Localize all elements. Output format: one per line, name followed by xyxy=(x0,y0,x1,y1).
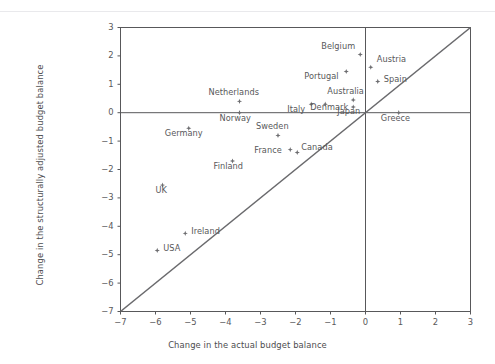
reference-lines xyxy=(121,28,471,312)
point-label-norway: Norway xyxy=(220,113,251,123)
x-tick-label: 0 xyxy=(354,317,378,327)
x-axis-title: Change in the actual budget balance xyxy=(0,340,495,350)
point-label-uk: UK xyxy=(156,185,167,195)
point-label-germany: Germany xyxy=(165,128,203,138)
y-tick-label: −6 xyxy=(92,278,114,288)
x-tick-label: 2 xyxy=(424,317,448,327)
y-tick-label: −4 xyxy=(92,221,114,231)
x-tick-label: −2 xyxy=(284,317,308,327)
y-tick-label: 1 xyxy=(92,79,114,89)
y-tick-label: −5 xyxy=(92,249,114,259)
y-axis-title: Change in the structurally adjusted budg… xyxy=(35,30,45,320)
point-label-france: France xyxy=(254,145,282,155)
y-tick-label: −1 xyxy=(92,136,114,146)
data-point-marker xyxy=(344,69,349,74)
data-point-marker xyxy=(295,150,300,155)
x-tick-label: 3 xyxy=(459,317,483,327)
y-tick-label: −3 xyxy=(92,192,114,202)
scatter-plot-canvas xyxy=(0,0,495,364)
x-tick-label: −6 xyxy=(144,317,168,327)
data-point-marker xyxy=(183,231,188,236)
data-point-marker xyxy=(237,99,242,104)
point-label-sweden: Sweden xyxy=(256,121,289,131)
x-tick-label: 1 xyxy=(389,317,413,327)
point-label-portugal: Portugal xyxy=(304,71,338,81)
point-label-australia: Australia xyxy=(327,86,364,96)
point-label-austria: Austria xyxy=(377,54,406,64)
data-point-marker xyxy=(351,97,356,102)
x-tick-label: −7 xyxy=(109,317,133,327)
point-label-canada: Canada xyxy=(301,142,332,152)
data-point-marker xyxy=(288,147,293,152)
point-label-usa: USA xyxy=(163,243,180,253)
x-tick-label: −5 xyxy=(179,317,203,327)
data-point-marker xyxy=(375,79,380,84)
x-tick-label: −1 xyxy=(319,317,343,327)
data-point-marker xyxy=(155,248,160,253)
y-tick-label: 0 xyxy=(92,107,114,117)
point-label-netherlands: Netherlands xyxy=(209,87,259,97)
x-tick-label: −3 xyxy=(249,317,273,327)
data-point-marker xyxy=(358,52,363,57)
y-tick-label: 3 xyxy=(92,22,114,32)
point-label-greece: Greece xyxy=(381,113,410,123)
chart-figure: Change in the actual budget balance Chan… xyxy=(0,0,495,364)
point-label-spain: Spain xyxy=(384,74,407,84)
y-tick-label: −2 xyxy=(92,164,114,174)
point-label-ireland: Ireland xyxy=(191,226,220,236)
point-label-italy: Italy xyxy=(287,104,305,114)
point-label-japan: Japan xyxy=(337,106,360,116)
data-point-marker xyxy=(368,65,373,70)
point-label-finland: Finland xyxy=(214,161,244,171)
y-tick-label: 2 xyxy=(92,50,114,60)
point-label-belgium: Belgium xyxy=(321,41,355,51)
x-tick-label: −4 xyxy=(214,317,238,327)
data-point-marker xyxy=(275,133,280,138)
y-tick-label: −7 xyxy=(92,306,114,316)
